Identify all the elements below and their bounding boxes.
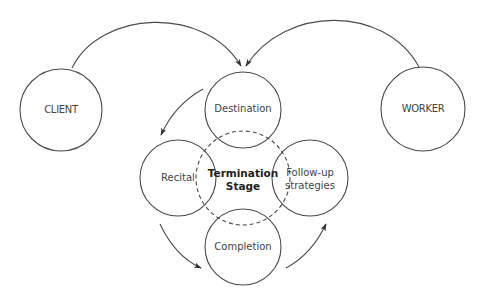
- node-destination: Destination: [205, 72, 281, 148]
- node-worker-label: WORKER: [402, 103, 445, 114]
- node-worker: WORKER: [381, 67, 465, 151]
- node-termination-stage: Termination Stage: [196, 131, 290, 225]
- node-client-label: CLIENT: [44, 104, 79, 115]
- edge-worker-to-destination: [246, 20, 419, 67]
- node-followup-label-line2: strategies: [285, 180, 335, 191]
- node-client: CLIENT: [20, 69, 102, 151]
- edge-recital-to-completion: [160, 224, 201, 268]
- node-termination-label-line1: Termination: [208, 167, 278, 179]
- node-followup: Follow-up strategies: [272, 140, 348, 216]
- edge-client-to-destination: [72, 22, 241, 68]
- termination-stage-diagram: CLIENT WORKER Destination Recital Follow…: [0, 0, 487, 307]
- edge-destination-to-recital: [161, 89, 203, 135]
- node-recital-label: Recital: [161, 172, 195, 183]
- node-completion-label: Completion: [214, 241, 271, 252]
- node-completion: Completion: [205, 209, 281, 285]
- node-followup-label-line1: Follow-up: [286, 167, 334, 178]
- node-termination-label-line2: Stage: [226, 180, 260, 192]
- edge-completion-to-followup: [286, 224, 326, 268]
- node-destination-label: Destination: [214, 103, 271, 114]
